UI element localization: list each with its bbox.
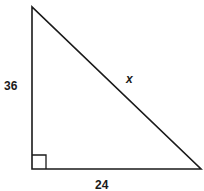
hypotenuse-label: x xyxy=(126,73,133,85)
right-angle-marker xyxy=(32,155,46,169)
vertical-leg-label: 36 xyxy=(4,80,17,92)
triangle-shape xyxy=(32,7,201,169)
right-triangle-diagram xyxy=(0,0,204,191)
horizontal-leg-label: 24 xyxy=(95,179,108,191)
